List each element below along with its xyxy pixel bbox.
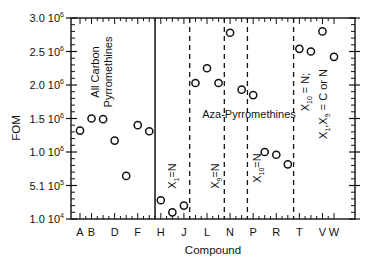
data-point-S [284, 161, 291, 168]
y-axis-ticks: 3.0 1062.5 1062.0 1061.5 1061.0 1065.1 1… [30, 11, 361, 225]
data-point-K [192, 79, 199, 86]
data-point-M [215, 79, 222, 86]
x-tick-label: F [134, 226, 141, 238]
y-tick-label: 1.0 104 [30, 212, 65, 225]
y-tick-label: 1.0 106 [30, 145, 65, 158]
data-point-N [226, 29, 233, 36]
data-point-J [180, 202, 187, 209]
annotation-aza: Aza-Pyrromethines [202, 108, 296, 120]
x-tick-label: J [181, 226, 187, 238]
x-tick-label: N [226, 226, 234, 238]
y-tick-label: 2.0 106 [30, 78, 65, 91]
x-tick-label: H [157, 226, 165, 238]
x-tick-label: D [111, 226, 119, 238]
scatter-chart: 3.0 1062.5 1062.0 1061.5 1061.0 1065.1 1… [0, 0, 367, 266]
x-tick-label: R [272, 226, 280, 238]
svg-text:X1,X9 = C or N: X1,X9 = C or N [317, 69, 331, 139]
data-point-B [88, 115, 95, 122]
data-points [76, 28, 337, 216]
data-point-E [123, 172, 130, 179]
data-point-R [273, 151, 280, 158]
y-tick-label: 1.5 106 [30, 112, 65, 125]
data-point-W [330, 53, 337, 60]
x-tick-label: A [76, 226, 84, 238]
annotation-x1-n: X1=N [166, 163, 180, 189]
data-point-T [296, 45, 303, 52]
x-tick-label: T [296, 226, 303, 238]
data-point-V [319, 28, 326, 35]
x-tick-label: L [204, 226, 210, 238]
data-point-U [307, 48, 314, 55]
data-point-C [99, 116, 106, 123]
data-point-G [146, 128, 153, 135]
data-point-F [134, 122, 141, 129]
x-tick-label: W [329, 226, 340, 238]
data-point-D [111, 137, 118, 144]
data-point-A [76, 127, 83, 134]
data-point-O [238, 86, 245, 93]
data-point-P [250, 91, 257, 98]
y-axis-title: FOM [10, 115, 22, 141]
annotation-x9-n: X9=N [209, 163, 223, 189]
x-axis-title: Compound [185, 244, 241, 256]
data-point-I [169, 209, 176, 216]
x-tick-label: B [88, 226, 95, 238]
annotation-right-group: X10 = N; X1,X9 = C or N [299, 69, 331, 139]
svg-text:Pyrromethines: Pyrromethines [102, 36, 114, 107]
y-tick-label: 3.0 106 [30, 11, 65, 24]
data-point-L [203, 65, 210, 72]
y-tick-label: 2.5 106 [30, 45, 65, 58]
svg-text:All Carbon: All Carbon [89, 46, 101, 97]
y-tick-label: 5.1 105 [30, 179, 65, 192]
svg-text:X10 = N;: X10 = N; [299, 73, 313, 112]
data-point-H [157, 197, 164, 204]
x-tick-label: P [250, 226, 257, 238]
x-tick-label: V [319, 226, 327, 238]
annotation-x10-n: X10=N [251, 153, 265, 183]
annotation-all-carbon: All Carbon Pyrromethines [89, 36, 114, 107]
